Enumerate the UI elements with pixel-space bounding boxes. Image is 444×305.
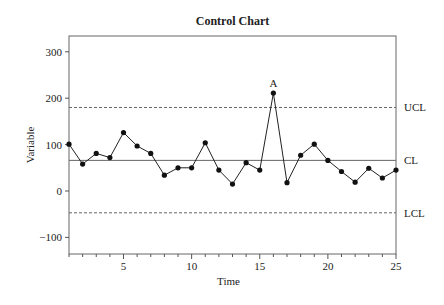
data-point <box>284 180 289 185</box>
y-tick-label: −100 <box>39 231 62 243</box>
data-point <box>203 140 208 145</box>
data-point <box>80 161 85 166</box>
data-point <box>94 151 99 156</box>
control-chart: Control Chart−1000100200300510152025Time… <box>0 0 444 305</box>
data-point <box>230 181 235 186</box>
data-point <box>380 175 385 180</box>
x-tick-label: 5 <box>121 260 127 272</box>
data-point <box>66 142 71 147</box>
data-point <box>312 142 317 147</box>
y-tick-label: 300 <box>46 46 63 58</box>
y-tick-label: 200 <box>46 92 63 104</box>
x-tick-label: 20 <box>322 260 334 272</box>
data-point <box>257 168 262 173</box>
data-point <box>148 151 153 156</box>
cl-label: CL <box>404 154 418 166</box>
y-tick-label: 100 <box>46 139 63 151</box>
data-point <box>366 166 371 171</box>
data-point <box>339 169 344 174</box>
data-point <box>244 160 249 165</box>
y-tick-label: 0 <box>57 185 63 197</box>
x-axis-label: Time <box>217 275 240 287</box>
x-tick-label: 25 <box>391 260 403 272</box>
data-point <box>121 130 126 135</box>
data-point <box>189 165 194 170</box>
data-point <box>353 180 358 185</box>
data-point <box>325 158 330 163</box>
lcl-label: LCL <box>404 207 425 219</box>
y-axis-label: Variable <box>24 127 36 164</box>
data-point <box>216 168 221 173</box>
x-tick-label: 15 <box>254 260 266 272</box>
data-point <box>107 155 112 160</box>
data-line <box>69 93 396 184</box>
plot-frame <box>69 36 396 254</box>
data-point <box>135 143 140 148</box>
data-point <box>175 165 180 170</box>
chart-title: Control Chart <box>196 14 269 28</box>
data-point <box>162 173 167 178</box>
ucl-label: UCL <box>404 101 426 113</box>
annotation-label: A <box>269 77 277 89</box>
data-point <box>271 90 276 95</box>
data-point <box>393 168 398 173</box>
data-point <box>298 153 303 158</box>
x-tick-label: 10 <box>186 260 198 272</box>
